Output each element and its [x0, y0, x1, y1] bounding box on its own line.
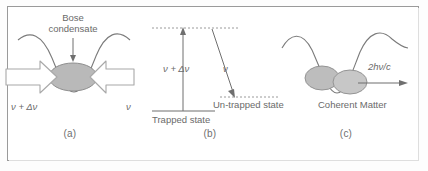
- right-beam-frequency-label: ν: [126, 101, 131, 112]
- condensate-pointer-head: [70, 55, 76, 62]
- condensate-label: Bose condensate: [38, 12, 108, 34]
- condensate-label-line2: condensate: [38, 23, 108, 34]
- panel-b: ν + Δν ν Un-trapped state Trapped state …: [140, 0, 280, 155]
- panel-c-caption: (c): [280, 128, 412, 139]
- panel-a-caption: (a): [0, 128, 140, 139]
- panel-b-caption: (b): [140, 128, 280, 139]
- condensate-label-line1: Bose: [38, 12, 108, 23]
- emission-frequency-label: ν: [223, 63, 228, 74]
- emission-arrow-line: [212, 29, 233, 92]
- left-laser-beam-arrow: [6, 61, 57, 93]
- panel-c: 2hν/c Coherent Matter (c): [280, 0, 412, 155]
- untrapped-state-label: Un-trapped state: [213, 99, 284, 110]
- right-laser-beam-arrow: [90, 61, 134, 93]
- left-beam-frequency-label: ν + Δν: [11, 101, 37, 112]
- output-arrow-head: [399, 80, 408, 86]
- absorption-frequency-label: ν + Δν: [163, 63, 189, 74]
- trapped-state-label: Trapped state: [152, 114, 210, 125]
- panel-a: Bose condensate ν + Δν ν (a): [0, 0, 140, 155]
- figure-root: Bose condensate ν + Δν ν (a) ν + Δν ν Un…: [0, 0, 428, 171]
- coherent-matter-blob-right: [333, 70, 367, 94]
- photon-momentum-label: 2hν/c: [368, 61, 391, 72]
- coherent-matter-label: Coherent Matter: [318, 99, 387, 110]
